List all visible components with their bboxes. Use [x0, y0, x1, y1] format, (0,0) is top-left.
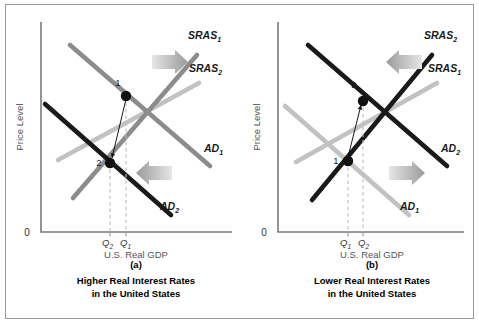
- origin-label-panel-a: 0: [24, 227, 30, 238]
- tick-label-q1-panel-b: Q1: [340, 237, 351, 250]
- curve-label-sras2-panel-b: SRAS2: [424, 29, 457, 43]
- economics-figure: SRAS1SRAS2AD1AD212Q2Q10Price LevelU.S. R…: [0, 0, 479, 324]
- equilibrium-point-1-panel-a: [121, 91, 131, 101]
- equilibrium-label-1-panel-b: 1: [333, 155, 338, 166]
- equilibrium-label-2-panel-b: 2: [351, 79, 356, 90]
- panel-letter-panel-b: (b): [366, 259, 378, 270]
- curve-label-sras2-panel-a: SRAS2: [189, 62, 222, 76]
- ad-shift-left-panel-a: [136, 161, 172, 185]
- panel-caption-line1-panel-a: Higher Real Interest Rates: [77, 275, 195, 286]
- panel-panel-a: SRAS1SRAS2AD1AD212Q2Q10Price LevelU.S. R…: [14, 22, 232, 299]
- tick-label-q1-panel-a: Q1: [120, 237, 131, 250]
- equilibrium-label-1-panel-a: 1: [115, 77, 120, 88]
- curve-label-ad1-panel-a: AD1: [203, 142, 223, 156]
- equilibrium-point-1-panel-b: [343, 156, 353, 166]
- curve-sras1-panel-a: [73, 55, 197, 198]
- y-axis-title-panel-a: Price Level: [14, 104, 25, 151]
- curve-label-ad1-panel-b: AD1: [399, 200, 419, 214]
- panel-letter-panel-a: (a): [130, 259, 142, 270]
- tick-label-q2-panel-a: Q2: [102, 237, 113, 250]
- equilibrium-point-2-panel-b: [358, 96, 368, 106]
- panel-caption-line2-panel-b: in the United States: [328, 288, 417, 299]
- curve-label-sras1-panel-a: SRAS1: [188, 29, 221, 43]
- figure-canvas: SRAS1SRAS2AD1AD212Q2Q10Price LevelU.S. R…: [0, 0, 479, 324]
- equilibrium-label-2-panel-a: 2: [96, 157, 101, 168]
- tick-label-q2-panel-b: Q2: [358, 237, 369, 250]
- curve-label-ad2-panel-a: AD2: [159, 200, 179, 214]
- panel-caption-line2-panel-a: in the United States: [92, 288, 181, 299]
- origin-label-panel-b: 0: [261, 227, 267, 238]
- equilibrium-point-2-panel-a: [105, 158, 115, 168]
- y-axis-title-panel-b: Price Level: [251, 104, 262, 151]
- panel-panel-b: SRAS2SRAS1AD1AD221Q1Q20Price LevelU.S. R…: [251, 22, 464, 299]
- curve-label-sras1-panel-b: SRAS1: [428, 62, 461, 76]
- curve-label-ad2-panel-b: AD2: [440, 142, 460, 156]
- ad-shift-right-panel-b: [389, 161, 425, 185]
- panel-caption-line1-panel-b: Lower Real Interest Rates: [314, 275, 430, 286]
